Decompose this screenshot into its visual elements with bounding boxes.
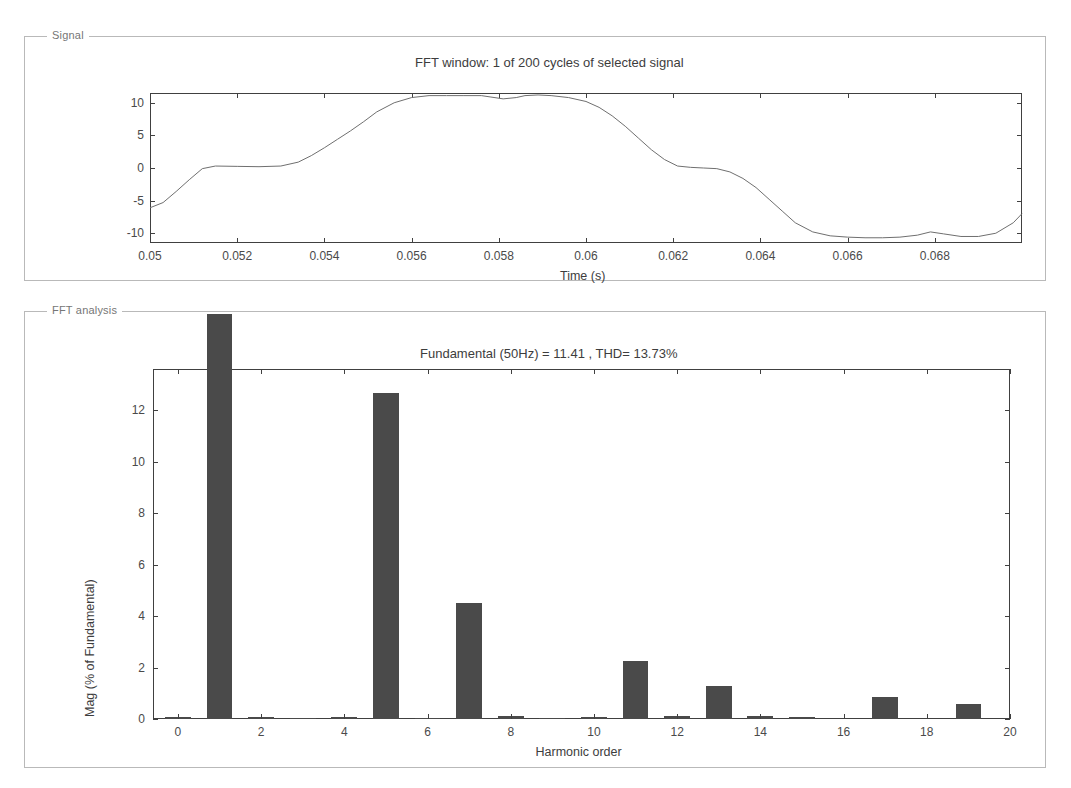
fft-x-tick-top [428,369,429,374]
fft-y-tick-right [1005,462,1010,463]
fft-bar [373,393,399,719]
fft-bar [207,314,233,719]
fft-bar [539,718,565,720]
fft-bar [290,718,316,720]
fft-x-tick-top [677,369,678,374]
fft-x-tick-label: 16 [837,725,850,739]
fft-bar [789,717,815,719]
fft-x-tick [511,714,512,719]
fft-analysis-panel: FFT analysis Fundamental (50Hz) = 11.41 … [24,311,1046,768]
fft-y-tick-label: 2 [109,661,145,675]
fft-x-tick-top [344,369,345,374]
fft-x-tick [594,714,595,719]
fft-x-tick-label: 12 [670,725,683,739]
fft-y-tick-label: 0 [109,712,145,726]
fft-y-tick-right [1005,719,1010,720]
fft-x-tick-label: 10 [587,725,600,739]
fft-x-tick [261,714,262,719]
fft-x-tick [428,714,429,719]
fft-plot-title: Fundamental (50Hz) = 11.41 , THD= 13.73% [420,346,678,361]
fft-y-tick-label: 12 [109,403,145,417]
fft-x-tick-top [1010,369,1011,374]
fft-x-tick-label: 18 [920,725,933,739]
fft-x-tick [1010,714,1011,719]
fft-y-tick [153,462,158,463]
fft-y-tick-right [1005,513,1010,514]
fft-x-tick [677,714,678,719]
fft-x-tick [844,714,845,719]
fft-x-tick [760,714,761,719]
fft-x-tick-top [927,369,928,374]
fft-y-tick-label: 4 [109,609,145,623]
fft-y-tick-label: 8 [109,506,145,520]
fft-x-tick-label: 4 [341,725,348,739]
fft-x-tick-label: 14 [754,725,767,739]
fft-bar [706,686,732,719]
fft-y-tick [153,616,158,617]
fft-y-tick-right [1005,410,1010,411]
fft-y-tick-right [1005,565,1010,566]
fft-y-tick-label: 10 [109,455,145,469]
fft-y-tick-right [1005,668,1010,669]
fft-x-axis-label: Harmonic order [536,745,622,759]
fft-y-tick [153,410,158,411]
fft-bar [872,697,898,719]
signal-waveform [25,37,1047,282]
fft-x-tick-top [511,369,512,374]
fft-x-tick-top [760,369,761,374]
fft-bar [623,661,649,719]
fft-y-tick-right [1005,616,1010,617]
fft-y-tick [153,513,158,514]
fft-bar [456,603,482,719]
fft-y-tick-label: 6 [109,558,145,572]
fft-x-tick-label: 0 [175,725,182,739]
fft-bar-series [153,369,1010,719]
fft-x-tick [344,714,345,719]
fft-y-tick [153,565,158,566]
fft-x-tick-label: 8 [507,725,514,739]
fft-panel-label: FFT analysis [47,304,122,316]
fft-x-tick [927,714,928,719]
fft-x-tick-label: 2 [258,725,265,739]
fft-x-tick-top [594,369,595,374]
fft-x-tick [178,714,179,719]
fft-y-tick [153,668,158,669]
fft-x-tick-label: 6 [424,725,431,739]
fft-y-tick [153,719,158,720]
fft-y-axis-label: Mag (% of Fundamental) [83,579,97,717]
fft-x-tick-top [844,369,845,374]
fft-x-tick-top [261,369,262,374]
signal-panel: Signal FFT window: 1 of 200 cycles of se… [24,36,1046,281]
fft-x-tick-top [178,369,179,374]
fft-bar [956,704,982,719]
fft-x-tick-label: 20 [1003,725,1016,739]
